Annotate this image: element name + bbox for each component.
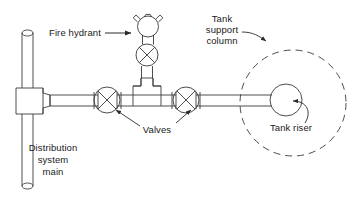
tank-riser-circle xyxy=(270,84,302,116)
label-tank-support-column-line1: Tank xyxy=(196,13,248,24)
hydrant-tee-body xyxy=(133,78,161,106)
valves-leader-right-line xyxy=(176,110,191,123)
label-tank-support-column-line3: column xyxy=(196,35,248,46)
label-fire-hydrant: Fire hydrant xyxy=(49,27,101,38)
tank-support-column-circle xyxy=(240,50,346,156)
hydrant-tee-hub-lines xyxy=(133,78,161,95)
hydrant-valve-cross xyxy=(139,47,155,63)
main-tee-hub-lines xyxy=(43,88,50,114)
valve-left-cross xyxy=(98,91,116,109)
branch-pipe-seg-3 xyxy=(161,95,172,106)
distribution-main-upper xyxy=(22,30,33,88)
valve-right-cross xyxy=(177,91,195,109)
tank-riser-leader-line xyxy=(293,101,308,123)
diagram-canvas: Fire hydrant Tank support column Valves … xyxy=(0,0,364,199)
hydrant-body-circle xyxy=(138,16,159,37)
label-distribution-main-line3: main xyxy=(14,166,92,177)
hydrant-riser-pipe xyxy=(142,66,153,78)
main-tee-body xyxy=(16,88,50,114)
branch-pipe-seg-4 xyxy=(200,95,272,106)
label-tank-riser: Tank riser xyxy=(260,122,322,133)
label-tank-support-column-line2: support xyxy=(196,24,248,35)
valves-leader-left-line xyxy=(116,110,140,126)
label-distribution-main-line2: system xyxy=(14,154,92,165)
label-distribution-main-line1: Distribution xyxy=(14,142,92,153)
distribution-main-lower-cap xyxy=(22,183,33,186)
branch-pipe-seg-1 xyxy=(50,95,94,106)
branch-pipe-seg-2 xyxy=(121,95,133,106)
distribution-main-upper-cap xyxy=(22,33,33,36)
label-valves: Valves xyxy=(138,124,176,135)
